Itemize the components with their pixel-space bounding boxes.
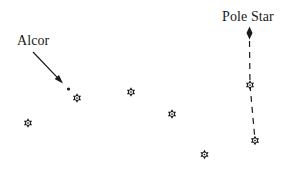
star-icon [246,80,254,89]
star-icon [73,93,81,102]
alcor-dot [67,87,70,90]
pointer-dashed-line [250,41,256,140]
pole-star-marker [247,27,253,40]
star-icon [251,136,259,145]
star-icon [24,118,32,127]
alcor-arrow-line [33,52,58,78]
star-icon [200,150,208,159]
stars-group [24,80,259,159]
constellation-diagram: Alcor Pole Star [0,0,286,172]
star-icon [168,109,176,118]
pole-star-label: Pole Star [222,10,274,24]
alcor-label: Alcor [17,34,49,48]
sky-svg [0,0,286,172]
star-icon [127,87,135,96]
